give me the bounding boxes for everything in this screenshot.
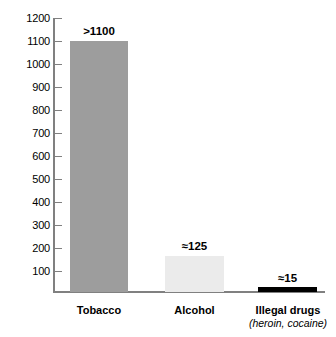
y-tick-1200 <box>55 18 62 19</box>
y-tick-text: 200 <box>8 243 50 254</box>
y-tick-label-700: 700 <box>0 128 50 139</box>
bar-tobacco <box>70 41 128 292</box>
category-sublabel-illegal-drugs: (heroin, cocaine) <box>243 317 333 330</box>
y-tick-label-400: 400 <box>0 197 50 208</box>
category-name-tobacco: Tobacco <box>77 304 121 316</box>
y-tick-label-100: 100 <box>0 266 50 277</box>
y-tick-900 <box>55 87 62 88</box>
bar-alcohol <box>165 256 224 292</box>
y-tick-label-800: 800 <box>0 105 50 116</box>
category-label-tobacco: Tobacco <box>60 304 138 317</box>
y-tick-text: 900 <box>8 82 50 93</box>
y-tick-600 <box>55 156 62 157</box>
y-tick-text: 600 <box>8 151 50 162</box>
value-label-illegal-drugs: ≈15 <box>258 272 317 284</box>
y-tick-label-1200: 1200 <box>0 13 50 24</box>
value-label-alcohol: ≈125 <box>165 240 224 252</box>
y-tick-500 <box>55 179 62 180</box>
y-tick-100 <box>55 271 62 272</box>
y-tick-text: 700 <box>8 128 50 139</box>
y-tick-label-600: 600 <box>0 151 50 162</box>
category-name-illegal-drugs: Illegal drugs <box>256 304 321 316</box>
y-tick-text: 800 <box>8 105 50 116</box>
y-tick-200 <box>55 248 62 249</box>
y-tick-400 <box>55 202 62 203</box>
y-tick-text: 1200 <box>8 13 50 24</box>
y-tick-text: 400 <box>8 197 50 208</box>
y-tick-1000 <box>55 64 62 65</box>
y-tick-label-1000: 1000 <box>0 59 50 70</box>
y-tick-text: 1100 <box>8 36 50 47</box>
bar-chart: 1200 1100 1000 900 800 700 600 500 400 3… <box>0 0 336 337</box>
bar-illegal-drugs <box>258 287 317 292</box>
y-tick-label-1100: 1100 <box>0 36 50 47</box>
y-tick-label-500: 500 <box>0 174 50 185</box>
y-tick-text: 100 <box>8 266 50 277</box>
y-tick-300 <box>55 225 62 226</box>
y-tick-text: 500 <box>8 174 50 185</box>
y-tick-800 <box>55 110 62 111</box>
y-tick-label-900: 900 <box>0 82 50 93</box>
y-tick-label-200: 200 <box>0 243 50 254</box>
y-tick-text: 1000 <box>8 59 50 70</box>
category-label-illegal-drugs: Illegal drugs (heroin, cocaine) <box>243 304 333 330</box>
y-tick-label-300: 300 <box>0 220 50 231</box>
y-tick-700 <box>55 133 62 134</box>
category-name-alcohol: Alcohol <box>174 304 214 316</box>
y-tick-text: 300 <box>8 220 50 231</box>
y-tick-1100 <box>55 41 62 42</box>
category-label-alcohol: Alcohol <box>155 304 234 317</box>
value-label-tobacco: >1100 <box>70 25 128 37</box>
